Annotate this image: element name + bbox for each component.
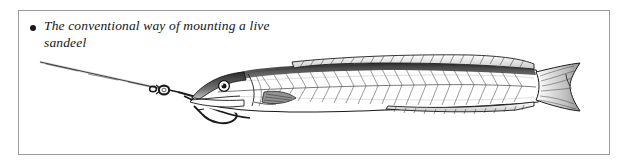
caudal-fin [536, 63, 580, 111]
swivel-ring [150, 85, 178, 94]
caption-text: The conventional way of mounting a live … [44, 18, 300, 51]
leader-line [40, 62, 158, 88]
figure-caption: The conventional way of mounting a live … [30, 18, 300, 51]
bullet-icon [30, 25, 36, 31]
fish-eye [219, 81, 230, 92]
figure-root: The conventional way of mounting a live … [0, 0, 628, 166]
caption-row: The conventional way of mounting a live … [30, 18, 300, 51]
